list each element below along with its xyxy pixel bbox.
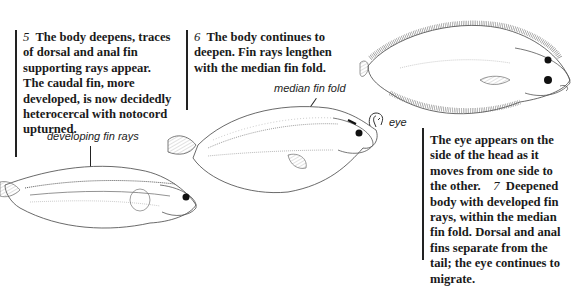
caption-stage5: 5 The body deepens, traces of dorsal and… [23, 30, 173, 138]
stage-number: 7 [493, 179, 499, 193]
caption-rule-stage5 [15, 30, 17, 157]
stage-number: 5 [23, 30, 29, 44]
caption-text: Deepened body with developed fin rays, w… [430, 179, 561, 285]
caption-text: The body deepens, traces of dorsal and a… [23, 30, 171, 136]
fish-illustration-stage6 [168, 100, 383, 200]
caption-rule-stage6 [186, 30, 188, 110]
label-developing-fin-rays: developing fin rays [47, 130, 139, 142]
caption-stage6: 6 The body continues to deepen. Fin rays… [194, 30, 334, 76]
label-median-fin-fold: median fin fold [274, 82, 346, 94]
caption-stage7: The eye appears on the side of the head … [430, 133, 570, 287]
caption-rule-stage7 [422, 128, 424, 260]
caption-text: The body continues to deepen. Fin rays l… [194, 30, 332, 75]
stage-number: 6 [194, 30, 200, 44]
fish-illustration-stage7 [360, 8, 573, 118]
